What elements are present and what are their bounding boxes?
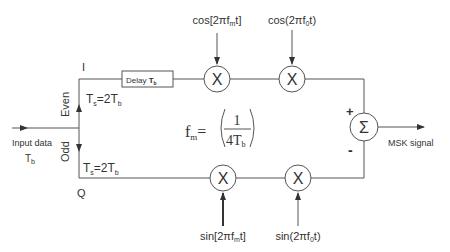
- multiplier-symbol: X: [212, 71, 223, 88]
- q-branch-label: Q: [77, 187, 86, 199]
- minus-sign: -: [348, 142, 353, 158]
- right-paren: [250, 109, 254, 147]
- q-path-to-summer: [311, 141, 364, 178]
- input-label: Input data: [12, 138, 52, 148]
- formula-lhs: fm=: [185, 123, 206, 142]
- multiplier-symbol: X: [293, 170, 304, 187]
- odd-arrow-icon: [76, 144, 82, 152]
- formula-denominator: 4Tb: [226, 133, 246, 149]
- carrier-top-1: cos[2πfmt]: [193, 14, 242, 27]
- q-symbol-period: Ts=2Tb: [83, 161, 119, 176]
- left-paren: [221, 109, 225, 147]
- carrier-bottom-2: sin(2πf0t): [275, 230, 320, 243]
- carrier-top-2: cos(2πf0t): [268, 14, 316, 27]
- even-arrow-icon: [76, 104, 82, 112]
- i-branch-label: I: [82, 61, 85, 73]
- odd-label: Odd: [59, 141, 71, 162]
- i-path-to-summer: [305, 79, 364, 113]
- formula-numerator: 1: [234, 113, 241, 128]
- sigma-icon: Σ: [359, 119, 369, 136]
- even-label: Even: [59, 92, 71, 117]
- input-arrow-icon: [20, 125, 28, 131]
- fm-formula: fm= 1 4Tb: [185, 109, 254, 149]
- delay-label: Delay Tb: [126, 76, 157, 86]
- input-period: Tb: [25, 153, 35, 165]
- multiplier-symbol: X: [218, 170, 229, 187]
- carrier-bottom-1: sin[2πfmt]: [200, 230, 246, 243]
- plus-sign: +: [346, 104, 354, 119]
- multiplier-symbol: X: [287, 71, 298, 88]
- i-symbol-period: Ts=2Tb: [86, 92, 122, 107]
- output-label: MSK signal: [388, 138, 434, 148]
- msk-modulator-diagram: Input data Tb Even Odd I Q Ts=2Tb Ts=2Tb…: [0, 0, 450, 252]
